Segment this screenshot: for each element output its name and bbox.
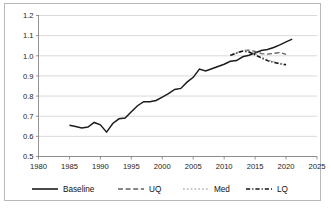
line-chart: 1.21.11.00.90.80.70.60.5 198019851990199… (0, 0, 331, 215)
x-tick-label: 2025 (309, 162, 326, 171)
x-axis-group (38, 15, 317, 157)
x-tick-label: 1995 (123, 162, 140, 171)
x-tick-label: 2005 (185, 162, 202, 171)
legend-label-baseline: Baseline (63, 185, 95, 194)
x-tickmarks-group (39, 157, 318, 160)
series-line-baseline (69, 39, 292, 132)
y-tick-labels-group: 1.21.11.00.90.80.70.60.5 (23, 11, 34, 161)
x-tick-label: 2015 (247, 162, 264, 171)
legend-label-uq: UQ (149, 185, 161, 194)
y-tick-label: 0.9 (23, 72, 34, 81)
y-tick-label: 1.1 (23, 31, 34, 40)
gridlines-group (39, 16, 318, 157)
y-tick-label: 1.2 (23, 11, 34, 20)
x-tick-label: 2020 (278, 162, 295, 171)
y-tick-label: 0.8 (23, 92, 34, 101)
legend-label-med: Med (214, 185, 230, 194)
y-tick-label: 0.7 (23, 112, 34, 121)
x-tick-label: 1990 (92, 162, 109, 171)
legend: BaselineUQMedLQ (32, 185, 288, 194)
x-tick-label: 2010 (216, 162, 233, 171)
y-tick-label: 0.6 (23, 132, 34, 141)
x-tick-label: 1980 (30, 162, 47, 171)
x-tick-labels-group: 1980198519901995200020052010201520202025 (30, 162, 325, 171)
y-tick-label: 1.0 (23, 52, 34, 61)
y-tick-label: 0.5 (23, 152, 34, 161)
x-tick-label: 2000 (154, 162, 171, 171)
x-tick-label: 1985 (61, 162, 78, 171)
chart-svg: 1.21.11.00.90.80.70.60.5 198019851990199… (0, 0, 331, 215)
series-group (69, 39, 292, 132)
legend-label-lq: LQ (277, 185, 288, 194)
